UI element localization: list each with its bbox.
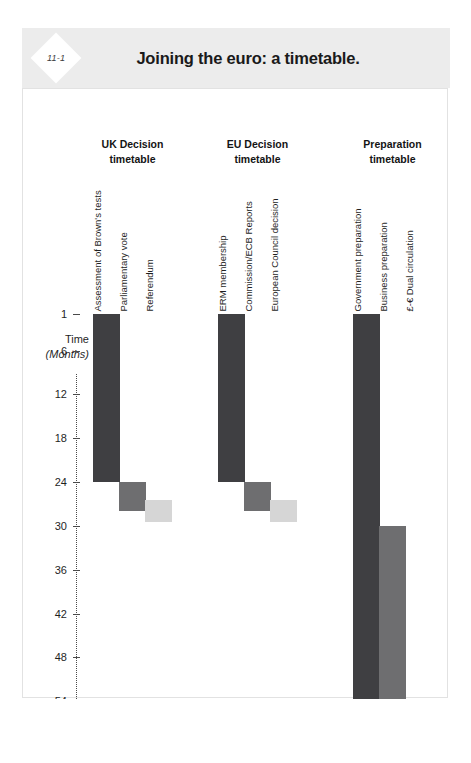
bar-label: ERM membership (218, 235, 228, 311)
y-tick-mark (73, 438, 80, 439)
group-header-line2: timetable (193, 152, 323, 167)
y-axis-title-line1: Time (65, 333, 89, 345)
bar-label: Government preparation (353, 209, 363, 312)
y-axis-line (76, 374, 77, 699)
plot-area: Time (Months) 16121824303642485460UK Dec… (23, 89, 449, 699)
figure-title: Joining the euro: a timetable. (22, 28, 450, 88)
chart-card: Time (Months) 16121824303642485460UK Dec… (22, 88, 448, 698)
y-tick-label: 54 (31, 695, 67, 699)
y-tick-mark (73, 526, 80, 527)
y-tick-label: 42 (31, 608, 67, 620)
bar (353, 314, 380, 699)
group-header-line1: Preparation (363, 138, 421, 150)
group-header-line2: timetable (68, 152, 198, 167)
bar (145, 500, 172, 522)
y-tick-label: 36 (31, 564, 67, 576)
y-tick-label: 1 (31, 308, 67, 320)
bar (93, 314, 120, 482)
y-tick-mark (73, 570, 80, 571)
y-tick-mark (73, 657, 80, 658)
group-header-line1: UK Decision (102, 138, 164, 150)
y-tick-label: 6 (31, 345, 67, 357)
y-tick-mark (73, 351, 80, 352)
y-tick-label: 24 (31, 476, 67, 488)
bar (119, 482, 146, 511)
group-header-line1: EU Decision (227, 138, 288, 150)
bar-label: Business preparation (379, 222, 389, 311)
bar (379, 526, 406, 699)
y-tick-label: 48 (31, 651, 67, 663)
y-tick-label: 30 (31, 520, 67, 532)
bar-label: Referendum (145, 259, 155, 311)
figure: 11-1 Joining the euro: a timetable. Time… (22, 28, 450, 700)
bar-label: Assessment of Brown's tests (93, 190, 103, 311)
group-header: EU Decisiontimetable (193, 137, 323, 167)
y-tick-label: 12 (31, 388, 67, 400)
bar-label: European Council decision (270, 198, 280, 311)
group-header: Preparationtimetable (328, 137, 450, 167)
bar (218, 314, 245, 482)
bar-label: £-€ Dual circulation (405, 230, 415, 311)
bar-label: Parliamentary vote (119, 232, 129, 311)
bar (244, 482, 271, 511)
bar (270, 500, 297, 522)
y-tick-mark (73, 394, 80, 395)
group-header-line2: timetable (328, 152, 450, 167)
y-tick-mark (73, 314, 80, 315)
bar-label: Commission/ECB Reports (244, 201, 254, 311)
y-tick-mark (73, 614, 80, 615)
group-header: UK Decisiontimetable (68, 137, 198, 167)
y-tick-label: 18 (31, 432, 67, 444)
y-tick-mark (73, 482, 80, 483)
figure-header-band: 11-1 Joining the euro: a timetable. (22, 28, 450, 88)
